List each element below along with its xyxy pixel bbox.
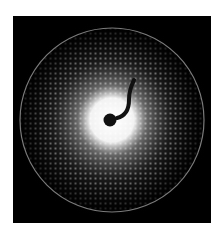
diffraction-pattern-image [13, 16, 211, 223]
diffraction-svg [13, 16, 211, 223]
